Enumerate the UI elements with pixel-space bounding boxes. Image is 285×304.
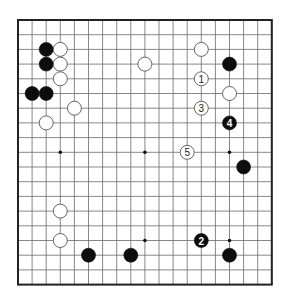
- black-stone-icon: [25, 87, 39, 101]
- black-stone: [39, 57, 53, 71]
- go-board[interactable]: 13452: [0, 0, 285, 304]
- black-stone-move-2: 2: [194, 234, 208, 248]
- white-stone: [138, 57, 152, 71]
- white-stone-icon: [39, 116, 53, 130]
- white-stone: [53, 72, 67, 86]
- black-stone: [223, 248, 237, 262]
- white-stone: [53, 234, 67, 248]
- white-stone-icon: [138, 57, 152, 71]
- black-stone-icon: [39, 87, 53, 101]
- star-point: [59, 151, 63, 155]
- black-stone: [82, 248, 96, 262]
- go-board-canvas[interactable]: 13452: [0, 0, 285, 304]
- white-stone-icon: [53, 42, 67, 56]
- white-stone: [53, 57, 67, 71]
- black-stone: [25, 87, 39, 101]
- black-stone: [124, 248, 138, 262]
- black-stone-icon: [39, 42, 53, 56]
- star-point: [228, 151, 232, 155]
- white-stone-icon: [223, 87, 237, 101]
- black-stone-icon: [39, 57, 53, 71]
- white-stone: [194, 42, 208, 56]
- black-stone: [237, 160, 251, 174]
- white-stone-move-5: 5: [180, 145, 194, 159]
- move-number: 1: [199, 74, 205, 85]
- move-number: 4: [227, 118, 233, 129]
- black-stone-move-4: 4: [223, 116, 237, 130]
- white-stone-icon: [53, 204, 67, 218]
- star-point: [228, 239, 232, 243]
- white-stone-move-1: 1: [194, 72, 208, 86]
- black-stone-icon: [223, 57, 237, 71]
- white-stone-move-3: 3: [194, 101, 208, 115]
- star-point: [143, 239, 147, 243]
- white-stone: [53, 42, 67, 56]
- black-stone-icon: [82, 248, 96, 262]
- white-stone-icon: [53, 234, 67, 248]
- white-stone: [39, 116, 53, 130]
- white-stone: [53, 204, 67, 218]
- white-stone-icon: [194, 42, 208, 56]
- black-stone: [223, 57, 237, 71]
- white-stone-icon: [53, 57, 67, 71]
- star-point: [143, 151, 147, 155]
- white-stone: [223, 87, 237, 101]
- white-stone: [67, 101, 81, 115]
- move-number: 5: [184, 147, 190, 158]
- black-stone-icon: [223, 248, 237, 262]
- black-stone-icon: [237, 160, 251, 174]
- white-stone-icon: [67, 101, 81, 115]
- white-stone-icon: [53, 72, 67, 86]
- black-stone: [39, 42, 53, 56]
- black-stone: [39, 87, 53, 101]
- black-stone-icon: [124, 248, 138, 262]
- move-number: 3: [199, 103, 205, 114]
- move-number: 2: [199, 236, 205, 247]
